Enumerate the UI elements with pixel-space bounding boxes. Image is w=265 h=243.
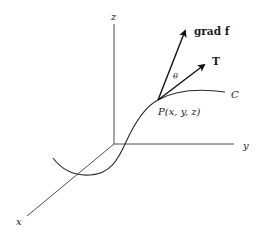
x-axis-label: x (16, 216, 22, 227)
tangent-label: T (212, 55, 220, 67)
point-label: P(x, y, z) (157, 106, 201, 117)
angle-theta-label: θ (173, 72, 178, 81)
curve-label: C (231, 89, 239, 100)
gradient-tangent-diagram: z y x C P(x, y, z) grad f T θ (0, 0, 265, 243)
z-axis-label: z (110, 11, 117, 22)
x-axis (27, 144, 114, 216)
y-axis-label: y (242, 140, 249, 151)
curve-c (53, 90, 225, 175)
gradient-label: grad f (194, 25, 231, 37)
